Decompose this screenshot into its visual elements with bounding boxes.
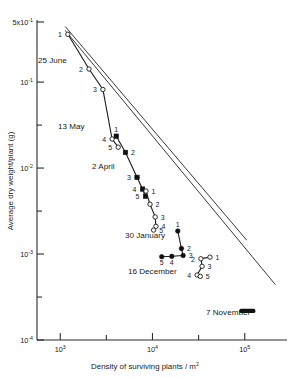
data-point-label: 3 [161, 214, 165, 221]
y-axis-title: Average dry weight/plant (g) [6, 131, 15, 230]
y-tick-label-1: 10-1 [20, 77, 33, 87]
data-point-marker [114, 134, 118, 138]
data-point-label: 1 [151, 188, 155, 195]
lab-30-january: 30 January [125, 231, 166, 240]
data-point-marker [181, 253, 186, 258]
x-axis-title: Density of surviving plants / m2 [91, 361, 199, 371]
data-point-label: 5 [108, 144, 112, 151]
lab-16-december: 16 December [128, 267, 177, 276]
data-point-label: 5 [136, 193, 140, 200]
x-tick-label-0: 103 [55, 344, 66, 354]
data-point-label: 4 [102, 136, 106, 143]
data-point-label: 2 [191, 256, 195, 263]
data-point-marker [198, 274, 202, 278]
lab-13-may: 13 May [58, 122, 85, 131]
data-point-marker [101, 87, 105, 91]
chart-figure: 5x10-110-110-210-310-4103104105Density o… [0, 0, 291, 377]
data-point-label: 3 [127, 174, 131, 181]
data-point-marker [66, 32, 70, 36]
data-point-label: 2 [79, 66, 83, 73]
data-point-label: 3 [208, 263, 212, 270]
data-point-label: 1 [58, 31, 62, 38]
series-13-may: 12345 [114, 126, 148, 200]
y-tick-label-0: 5x10-1 [12, 17, 33, 27]
data-point-marker [179, 246, 184, 251]
y-tick-label-5: 10-3 [20, 249, 33, 259]
data-point-label: 1 [215, 254, 219, 261]
series-16-december: 12345 [187, 254, 219, 280]
data-point-label: 4 [170, 259, 174, 266]
data-point-marker [200, 264, 204, 268]
y-tick-label-3: 10-2 [20, 163, 33, 173]
data-point-marker [153, 215, 157, 219]
data-point-marker [199, 257, 203, 261]
boundary-line-1 [65, 26, 247, 240]
data-point-marker [135, 175, 139, 179]
lab-7-november: 7 November [206, 308, 250, 317]
data-point-label: 2 [155, 201, 159, 208]
data-point-marker [123, 150, 127, 154]
data-point-marker [87, 67, 91, 71]
data-point-marker [208, 255, 212, 259]
data-point-label: 5 [206, 273, 210, 280]
series-2-april: 12345 [144, 188, 166, 234]
lab-25-june: 25 June [38, 56, 67, 65]
boundary-line-2 [65, 30, 275, 284]
data-point-label: 1 [114, 126, 118, 133]
lab-2-april: 2 April [92, 162, 115, 171]
data-point-label: 4 [187, 272, 191, 279]
data-point-marker [148, 202, 152, 206]
y-tick-label-7: 10-4 [20, 335, 33, 345]
chart-svg: 5x10-110-110-210-310-4103104105Density o… [0, 0, 291, 377]
data-point-label: 2 [131, 149, 135, 156]
data-point-label: 1 [176, 221, 180, 228]
x-tick-label-4: 105 [239, 344, 250, 354]
series-25-june: 12345 [58, 31, 120, 151]
data-point-label: 3 [93, 86, 97, 93]
data-point-label: 2 [187, 245, 191, 252]
data-point-marker [175, 229, 180, 234]
data-point-label: 4 [133, 186, 137, 193]
x-tick-label-2: 104 [147, 344, 158, 354]
data-point-marker [110, 137, 114, 141]
data-point-marker [144, 189, 148, 193]
data-point-marker [116, 145, 120, 149]
data-point-label: 5 [160, 259, 164, 266]
